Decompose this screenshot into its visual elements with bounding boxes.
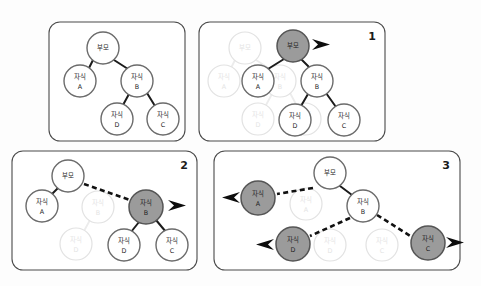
ghost-node-parent: 부모 [229,32,261,64]
node-child-c-circle[interactable] [156,229,188,261]
node-child-b-circle[interactable] [301,65,333,97]
ghost-node-child-b-label-2: B [278,83,282,91]
ghost-node-child-a-label-1: 자식 [300,195,312,204]
ghost-node-child-b-label-2: B [96,209,100,217]
node-child-a[interactable]: 자식 A [242,65,274,97]
node-child-c[interactable]: 자식 C [147,103,179,135]
node-parent-label: 부모 [287,42,299,50]
node-child-c[interactable]: 자식 C [328,104,360,136]
node-child-d-label-2: D [291,246,296,254]
ghost-node-child-c-circle [366,229,398,261]
node-child-a[interactable]: 자식 A [241,181,275,215]
figure-canvas: 부모 자식 A 자식 B 자식 D 자식 C 1 [0,0,481,286]
panel-1: 1 부모 자식 A 자식 B 자식 D [199,22,385,141]
ghost-node-child-d-label-1: 자식 [324,236,336,245]
node-child-a-label-2: A [256,83,261,91]
ghost-node-child-a-circle [290,188,322,220]
node-child-c-label-1: 자식 [157,110,169,119]
node-child-c[interactable]: 자식 C [411,226,445,260]
node-child-a-label-2: A [40,208,45,216]
node-parent-label: 부모 [324,169,336,177]
ghost-node-child-b-circle [82,191,114,223]
ghost-node-child-a-label-2: A [304,206,309,214]
node-child-a-label-1: 자식 [74,72,86,81]
ghost-node-child-b-label-1: 자식 [92,198,104,207]
node-child-a-label-1: 자식 [36,197,48,206]
node-child-a-label-2: A [78,83,83,91]
node-parent[interactable]: 부모 [277,30,309,62]
panel-3-number: 3 [442,159,450,172]
ghost-node-child-d-label-2: D [74,246,79,254]
ghost-node-child-a-label-1: 자식 [218,72,230,81]
node-child-a-label-1: 자식 [252,72,264,81]
ghost-node-child-a-circle [208,65,240,97]
node-child-d[interactable]: 자식 D [276,227,310,261]
node-child-b-label-2: B [361,208,365,216]
ghost-node-child-d-label-2: D [256,121,261,129]
node-child-d-label-1: 자식 [289,111,301,120]
node-child-d-label-1: 자식 [287,235,299,244]
node-child-b[interactable]: 자식 B [129,190,163,224]
node-parent[interactable]: 부모 [314,157,346,189]
ghost-node-child-d-label-2: D [328,247,333,255]
node-child-b-label-2: B [144,209,148,217]
ghost-node-child-b: 자식 B [82,191,114,223]
ghost-node-child-d: 자식 D [242,103,274,135]
panel-initial: 부모 자식 A 자식 B 자식 D 자식 C [49,22,185,141]
node-child-b[interactable]: 자식 B [347,190,379,222]
node-child-d-label-1: 자식 [111,110,123,119]
node-child-d-circle[interactable] [108,229,140,261]
panel-1-number: 1 [368,30,376,43]
node-child-d-circle[interactable] [101,103,133,135]
panel-3: 3 자식 A 자식 D 자식 C [214,151,464,270]
node-child-a-circle[interactable] [64,65,96,97]
node-child-c[interactable]: 자식 C [156,229,188,261]
node-child-b[interactable]: 자식 B [121,65,153,97]
ghost-node-child-c: 자식 C [366,229,398,261]
node-child-a[interactable]: 자식 A [64,65,96,97]
node-child-b-circle[interactable] [347,190,379,222]
node-child-c-circle[interactable] [328,104,360,136]
node-child-b[interactable]: 자식 B [301,65,333,97]
node-parent-label: 부모 [97,44,109,52]
ghost-node-child-a: 자식 A [290,188,322,220]
node-child-c-label-1: 자식 [166,236,178,245]
node-child-d-circle[interactable] [279,104,311,136]
node-child-d-label-2: D [293,122,298,130]
node-child-d-label-1: 자식 [118,236,130,245]
node-child-c-circle[interactable] [147,103,179,135]
node-child-c-circle[interactable] [411,226,445,260]
node-child-b-circle[interactable] [121,65,153,97]
node-child-c-label-2: C [161,121,166,129]
node-child-c-label-1: 자식 [422,234,434,243]
node-parent-label: 부모 [62,172,74,180]
node-child-d[interactable]: 자식 D [108,229,140,261]
node-child-d[interactable]: 자식 D [101,103,133,135]
node-child-b-label-2: B [135,83,139,91]
node-child-b-label-1: 자식 [357,197,369,206]
panel-2: 2 자식 B 자식 D 부모 자식 A [12,151,197,270]
node-child-a-circle[interactable] [241,181,275,215]
node-parent[interactable]: 부모 [52,160,84,192]
node-child-d-circle[interactable] [276,227,310,261]
node-child-b-circle[interactable] [129,190,163,224]
node-child-c-label-2: C [170,247,175,255]
node-child-c-label-2: C [426,245,431,253]
ghost-node-child-d-label-1: 자식 [70,235,82,244]
node-child-a-circle[interactable] [26,190,58,222]
node-child-a-label-1: 자식 [252,189,264,198]
ghost-node-child-c-label-1: 자식 [376,236,388,245]
node-child-b-label-1: 자식 [140,198,152,207]
ghost-node-parent-label: 부모 [239,44,251,52]
ghost-node-child-a: 자식 A [208,65,240,97]
node-child-d[interactable]: 자식 D [279,104,311,136]
node-parent[interactable]: 부모 [87,32,119,64]
ghost-node-child-c-label-2: C [380,247,385,255]
ghost-node-child-d: 자식 D [314,229,346,261]
node-child-a-label-2: A [256,200,261,208]
node-child-b-label-2: B [315,83,319,91]
ghost-node-child-b-label-1: 자식 [274,72,286,81]
node-child-a[interactable]: 자식 A [26,190,58,222]
node-child-a-circle[interactable] [242,65,274,97]
node-child-c-label-2: C [342,122,347,130]
